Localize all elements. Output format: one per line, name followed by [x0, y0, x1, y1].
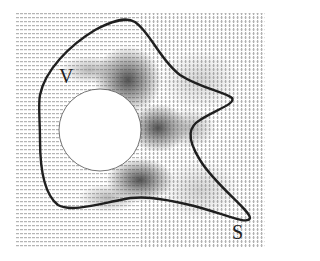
obstacle-circle: [59, 89, 141, 171]
surface-label: S: [232, 222, 243, 242]
volume-label: V: [59, 66, 73, 86]
